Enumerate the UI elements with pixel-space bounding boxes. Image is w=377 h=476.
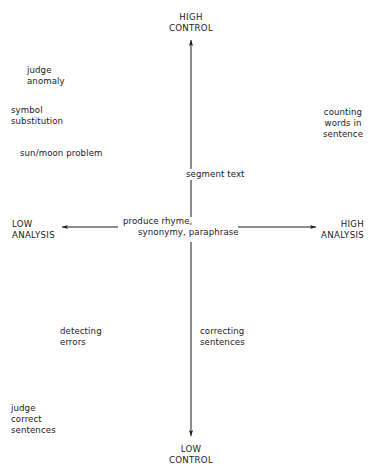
high-analysis-label: HIGH ANALYSIS <box>304 219 364 241</box>
low-analysis-label: LOW ANALYSIS <box>12 219 55 241</box>
item-judge-anomaly: judge anomaly <box>27 65 65 87</box>
item-judge-correct-sentences: judge correct sentences <box>11 403 56 436</box>
item-correcting-sentences: correcting sentences <box>200 326 245 348</box>
high-control-label: HIGH CONTROL <box>161 12 221 34</box>
item-sun-moon-problem: sun/moon problem <box>20 148 103 159</box>
low-control-label: LOW CONTROL <box>161 444 221 466</box>
item-counting-words-in-sentence: counting words in sentence <box>318 107 368 140</box>
center-label-line2: synonymy, paraphrase <box>138 227 239 238</box>
item-symbol-substitution: symbol substitution <box>11 105 63 127</box>
item-detecting-errors: detecting errors <box>60 326 102 348</box>
center-label-line1: produce rhyme, <box>123 216 192 227</box>
item-segment-text: segment text <box>185 169 246 180</box>
